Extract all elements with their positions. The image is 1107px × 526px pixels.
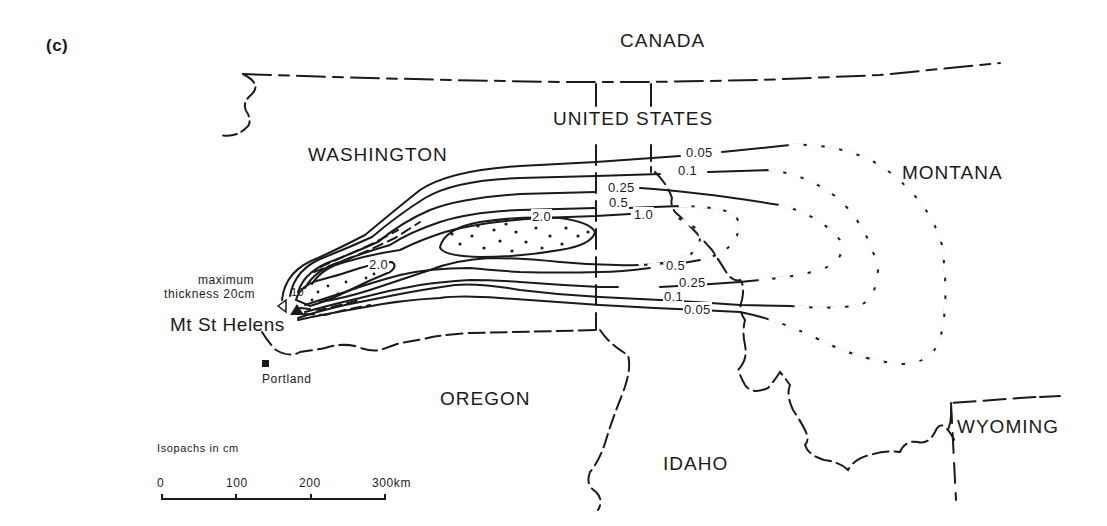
isopach-label-0-05-upper: 0.05 — [685, 145, 714, 160]
scale-tick-300km: 300km — [372, 476, 411, 490]
isopach-0-5-dashed — [680, 206, 739, 260]
label-oregon: OREGON — [440, 388, 530, 410]
isopach-2-0-core — [440, 218, 595, 258]
scale-bar — [162, 494, 385, 499]
pointer-arrow — [278, 300, 286, 312]
isopach-label-2-0-core: 2.0 — [531, 209, 552, 224]
or-id-border — [588, 330, 629, 510]
wyoming-border-top — [1040, 396, 1060, 397]
panel-label: (c) — [46, 36, 68, 56]
wa-or-border — [262, 330, 600, 355]
isopach-label-0-5-upper: 0.5 — [608, 195, 629, 210]
canada-us-border — [243, 63, 1000, 82]
volcano-icon — [290, 304, 304, 315]
isopach-0-25-dashed — [760, 205, 842, 280]
isopach-0-1-dashed — [770, 170, 878, 308]
legend-isopachs-units: Isopachs in cm — [157, 442, 239, 454]
label-mt-st-helens: Mt St Helens — [170, 314, 285, 336]
isopach-label-0-1-lower: 0.1 — [663, 289, 684, 304]
isopach-label-0-05-lower: 0.05 — [683, 302, 712, 317]
label-portland: Portland — [262, 372, 312, 386]
label-canada: CANADA — [620, 30, 705, 52]
isopach-label-0-25-lower: 0.25 — [678, 275, 707, 290]
portland-marker-icon — [262, 360, 269, 367]
isopach-label-10: 10 — [290, 286, 305, 298]
scale-tick-200: 200 — [299, 476, 321, 490]
scale-tick-0: 0 — [157, 476, 164, 490]
max-thickness-note-line2: thickness 20cm — [164, 287, 255, 301]
wyoming-border-east — [951, 403, 956, 500]
isopach-0-05 — [282, 145, 946, 364]
isopach-label-2-0-inner: 2.0 — [368, 257, 389, 272]
isopach-label-0-5-lower: 0.5 — [665, 258, 686, 273]
coastline-nw — [220, 74, 255, 136]
isopach-label-1-0: 1.0 — [633, 207, 654, 222]
label-idaho: IDAHO — [663, 453, 728, 475]
isopach-0-25 — [298, 188, 842, 312]
isopach-label-0-25-upper: 0.25 — [607, 180, 636, 195]
max-thickness-note-line1: maximum — [198, 273, 254, 287]
label-montana: MONTANA — [902, 162, 1003, 184]
label-wyoming: WYOMING — [957, 416, 1059, 438]
label-united-states: UNITED STATES — [553, 108, 713, 130]
isopach-label-0-1-upper: 0.1 — [677, 163, 698, 178]
scale-tick-100: 100 — [226, 476, 248, 490]
label-washington: WASHINGTON — [308, 144, 448, 166]
